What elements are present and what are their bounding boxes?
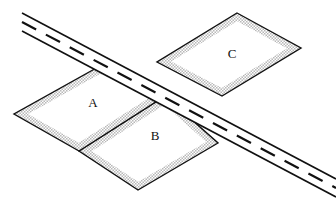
parcel-b-label: B [151,128,160,143]
diagram-canvas: B A C [0,0,336,199]
parcel-road-diagram: B A C [0,0,336,199]
parcel-a-label: A [88,95,98,110]
parcel-c-label: C [228,46,237,61]
parcel-c: C [157,13,301,96]
